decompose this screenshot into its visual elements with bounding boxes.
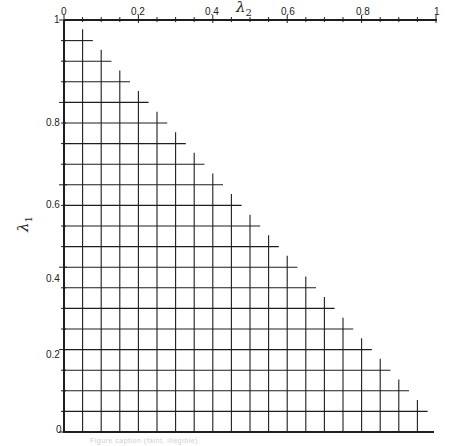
x-tick-label-0.8: 0.8 (356, 7, 370, 17)
x-tick-label-0.2: 0.2 (131, 7, 145, 17)
x-tick-label-1: 1 (434, 7, 440, 17)
y-tick-label-0.4: 0.4 (46, 274, 60, 284)
y-axis-subscript: 1 (23, 216, 34, 222)
x-axis-symbol: λ (236, 0, 246, 16)
x-tick-label-0: 0 (61, 7, 67, 17)
figure-caption: Figure caption (faint, illegible) (90, 437, 430, 445)
grid-diagram (0, 0, 456, 446)
y-axis-symbol: λ (14, 222, 32, 232)
y-tick-label-1: 1 (54, 15, 60, 25)
y-tick-label-0.2: 0.2 (46, 350, 60, 360)
x-axis-subscript: 2 (246, 7, 252, 18)
y-tick-label-0.8: 0.8 (46, 118, 60, 128)
y-tick-label-0: 0 (56, 425, 62, 435)
y-tick-label-0.6: 0.6 (46, 200, 60, 210)
x-axis-title: λ2 (236, 0, 252, 18)
x-tick-label-0.6: 0.6 (281, 7, 295, 17)
y-axis-title: λ1 (14, 216, 34, 232)
x-tick-label-0.4: 0.4 (205, 7, 219, 17)
